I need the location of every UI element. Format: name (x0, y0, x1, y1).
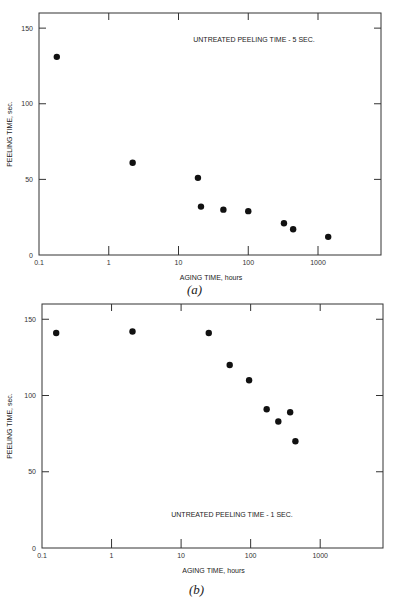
y-tick-label: 50 (25, 176, 33, 183)
data-point (281, 220, 287, 226)
data-point (129, 160, 135, 166)
x-tick-label: 10 (177, 552, 185, 559)
x-tick-label: 1 (107, 259, 111, 266)
data-point (198, 203, 204, 209)
x-tick-label: 100 (245, 552, 257, 559)
scatter-plot-b: 0.11101001000050100150AGING TIME, hoursP… (0, 300, 393, 600)
y-axis-title: PEELING TIME, sec. (6, 393, 13, 459)
data-point (53, 330, 59, 336)
y-tick-label: 150 (24, 316, 36, 323)
data-point (54, 54, 60, 60)
y-axis-title: PEELING TIME, sec. (6, 101, 13, 167)
plot-frame (39, 13, 381, 255)
x-axis-title: AGING TIME, hours (182, 567, 245, 574)
y-tick-label: 0 (32, 545, 36, 552)
data-point (246, 377, 252, 383)
x-axis-title: AGING TIME, hours (180, 274, 243, 281)
figure-b: 0.11101001000050100150AGING TIME, hoursP… (0, 300, 393, 600)
x-tick-label: 0.1 (37, 552, 47, 559)
x-tick-label: 0.1 (34, 259, 44, 266)
figure-a: 0.11101001000050100150AGING TIME, hoursP… (0, 0, 393, 300)
x-tick-label: 1 (110, 552, 114, 559)
x-tick-label: 1000 (310, 259, 326, 266)
annotation-text: UNTREATED PEELING TIME - 1 SEC. (171, 511, 293, 518)
y-tick-label: 50 (28, 468, 36, 475)
y-tick-label: 100 (24, 392, 36, 399)
data-point (287, 409, 293, 415)
data-point (325, 234, 331, 240)
data-point (245, 208, 251, 214)
data-point (129, 328, 135, 334)
x-tick-label: 10 (175, 259, 183, 266)
x-tick-label: 1000 (312, 552, 328, 559)
data-point (263, 406, 269, 412)
caption-a: (a) (187, 282, 202, 298)
data-point (292, 438, 298, 444)
y-tick-label: 0 (29, 252, 33, 259)
data-point (290, 226, 296, 232)
annotation-text: UNTREATED PEELING TIME - 5 SEC. (193, 36, 315, 43)
data-point (206, 330, 212, 336)
scatter-plot-a: 0.11101001000050100150AGING TIME, hoursP… (0, 0, 393, 300)
caption-b: (b) (189, 582, 204, 598)
y-tick-label: 100 (21, 100, 33, 107)
data-point (227, 362, 233, 368)
data-point (220, 206, 226, 212)
x-tick-label: 100 (242, 259, 254, 266)
data-point (195, 175, 201, 181)
data-point (275, 418, 281, 424)
y-tick-label: 150 (21, 25, 33, 32)
